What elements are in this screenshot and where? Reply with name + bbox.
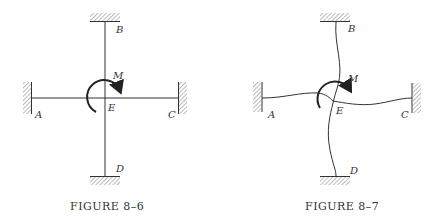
- label-b: B: [115, 24, 123, 35]
- figure-8-7: B M E A C D FIGURE 8–7: [253, 13, 421, 213]
- member-ec-deformed: [333, 98, 412, 105]
- label-a: A: [267, 109, 275, 120]
- member-ae-deformed: [262, 93, 333, 101]
- support-a: [253, 82, 261, 112]
- support-b: [90, 13, 120, 21]
- label-b: B: [347, 23, 355, 34]
- label-e: E: [107, 102, 116, 113]
- caption-figure-8-6: FIGURE 8–6: [70, 200, 144, 213]
- label-c: C: [401, 109, 409, 120]
- support-d: [90, 177, 120, 185]
- member-ed-deformed: [328, 103, 336, 176]
- label-e: E: [335, 105, 344, 116]
- support-c: [179, 82, 187, 114]
- label-d: D: [115, 163, 124, 174]
- support-d: [320, 177, 350, 185]
- support-c: [413, 83, 421, 113]
- label-m: M: [112, 70, 124, 81]
- caption-figure-8-7: FIGURE 8–7: [305, 200, 379, 213]
- label-d: D: [349, 165, 358, 176]
- support-b: [320, 13, 350, 21]
- support-a: [23, 82, 31, 114]
- member-be-deformed: [333, 22, 340, 103]
- diagram-canvas: B M E A C D FIGURE 8–6 B M E A C D FIGUR…: [0, 0, 440, 217]
- moment-arrow-icon: [318, 82, 350, 108]
- label-c: C: [168, 109, 176, 120]
- figure-8-6: B M E A C D FIGURE 8–6: [23, 13, 187, 213]
- label-a: A: [34, 109, 42, 120]
- label-m: M: [347, 73, 359, 84]
